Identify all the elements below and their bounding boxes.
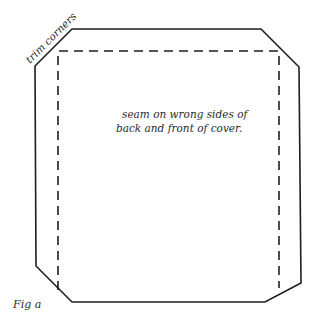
trim-corners-label: trim corners	[23, 9, 79, 65]
figure-caption: Fig a	[12, 298, 41, 311]
figure-canvas: trim corners seam on wrong sides of back…	[0, 0, 321, 327]
cover-pattern-diagram: trim corners seam on wrong sides of back…	[0, 0, 321, 327]
seam-line-dashed	[58, 51, 279, 290]
seam-note-line-2: back and front of cover.	[116, 122, 242, 134]
seam-note-line-1: seam on wrong sides of	[122, 108, 249, 120]
outer-cut-outline	[35, 29, 301, 302]
